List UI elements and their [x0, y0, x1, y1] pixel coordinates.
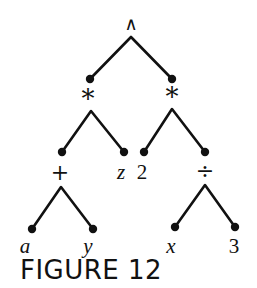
node-dot [171, 223, 179, 231]
node-dot [120, 148, 128, 156]
node-dot [58, 148, 66, 156]
plus-label: + [51, 162, 69, 184]
x-label: x [166, 236, 175, 257]
tree-edges [0, 0, 257, 288]
edge-root [90, 37, 172, 79]
two-label: 2 [137, 162, 148, 183]
multiply-left-label: * [82, 86, 95, 112]
z-label: z [117, 162, 125, 183]
root-operator-label: ∧ [124, 15, 137, 33]
multiply-right-label: * [166, 84, 179, 110]
figure: ∧ * * + z 2 ÷ a y x 3 FIGURE 12 [0, 0, 257, 288]
edge-mul-left [62, 111, 124, 152]
figure-caption: FIGURE 12 [20, 255, 162, 285]
node-dot [89, 225, 97, 233]
a-label: a [20, 236, 31, 257]
edge-plus [32, 187, 93, 229]
node-dot [86, 75, 94, 83]
y-label: y [83, 236, 92, 257]
node-dot [231, 223, 239, 231]
node-dot [201, 148, 209, 156]
edge-mul-right [144, 109, 205, 152]
node-dot [28, 225, 36, 233]
node-dot [140, 148, 148, 156]
edge-div [175, 185, 235, 227]
divide-label: ÷ [196, 161, 214, 183]
three-label: 3 [229, 236, 240, 257]
